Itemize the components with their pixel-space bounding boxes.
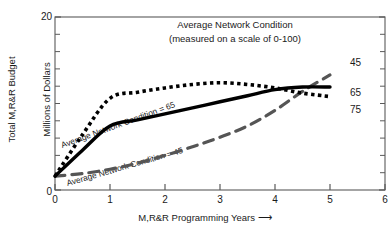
plot-area (0, 0, 390, 240)
x-axis-ticks (55, 184, 385, 190)
chart-figure: Average Network Condition (measured on a… (0, 0, 390, 240)
data-series-group (55, 75, 330, 176)
series-line-75 (55, 83, 330, 176)
series-line-45 (55, 75, 330, 176)
